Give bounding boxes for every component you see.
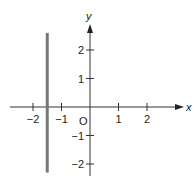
y-tick-label: 2 [78,44,84,56]
y-tick-label: 1 [78,73,84,85]
y-axis-label: y [85,10,93,22]
axes [10,24,184,176]
y-axis-arrow-icon [87,24,93,33]
y-tick-label: −1 [71,130,84,142]
x-tick-label: −1 [55,113,68,125]
y-tick-label: −2 [71,158,84,170]
x-axis-label: x [185,101,192,113]
plot-svg: −2−11221−1−2 y x O [0,0,195,185]
x-tick-label: 2 [144,113,150,125]
x-tick-label: −2 [27,113,40,125]
coordinate-plane: −2−11221−1−2 y x O [0,0,195,185]
origin-label: O [79,115,88,127]
x-tick-label: 1 [115,113,121,125]
x-axis-arrow-icon [175,104,184,110]
